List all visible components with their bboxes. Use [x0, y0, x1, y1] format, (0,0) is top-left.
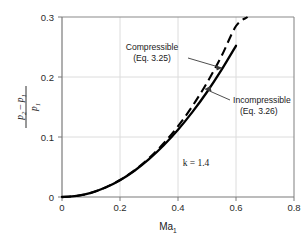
y-axis-title-numerator: p2 – p1 [15, 94, 27, 121]
chart-figure: 0 0.1 0.2 0.3 0 0.2 0.4 0.6 0.8 Compress… [0, 0, 308, 239]
x-tick-label-0.6: 0.6 [229, 202, 242, 213]
x-tick-label-0.2: 0.2 [113, 202, 126, 213]
y-axis-den-sub: 1 [34, 103, 41, 106]
annotation-k-value: k = 1.4 [183, 158, 210, 168]
y-axis-num-sub1: 1 [20, 94, 27, 97]
x-axis-title-sub: 1 [173, 227, 177, 234]
x-axis-title-base: Ma [159, 221, 173, 232]
x-tick-label-0: 0 [59, 202, 64, 213]
annotation-compressible-line1: Compressible [126, 42, 179, 52]
y-tick-label-0: 0 [49, 192, 54, 203]
chart-background [0, 0, 308, 239]
y-tick-label-0.2: 0.2 [41, 72, 54, 83]
x-tick-label-0.8: 0.8 [287, 202, 300, 213]
y-tick-label-0.3: 0.3 [41, 12, 54, 23]
chart-svg: 0 0.1 0.2 0.3 0 0.2 0.4 0.6 0.8 Compress… [0, 0, 308, 239]
annotation-compressible-line2: (Eq. 3.25) [133, 53, 171, 63]
annotation-incompressible-line1: Incompressible [233, 95, 291, 105]
x-tick-label-0.4: 0.4 [171, 202, 184, 213]
y-axis-num-minus: – [15, 102, 25, 112]
annotation-incompressible-line2: (Eq. 3.26) [240, 106, 278, 116]
y-tick-label-0.1: 0.1 [41, 132, 54, 143]
